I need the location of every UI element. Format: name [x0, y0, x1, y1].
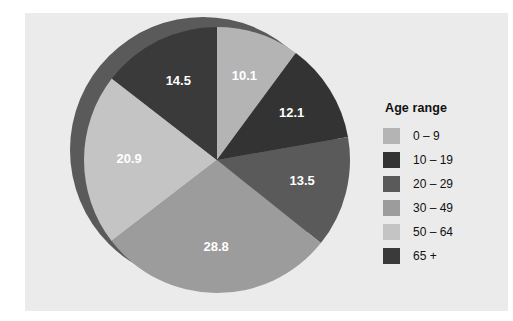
legend-item[interactable]: 65 + [383, 244, 493, 268]
legend-item-label: 65 + [413, 249, 437, 263]
legend-item-label: 0 – 9 [413, 129, 440, 143]
legend-title: Age range [385, 101, 493, 115]
pie-slice-label: 28.8 [204, 239, 229, 254]
legend-swatch [383, 128, 400, 144]
chart-page: 10.112.113.528.820.914.5 Age range 0 – 9… [0, 0, 513, 321]
legend-item[interactable]: 10 – 19 [383, 148, 493, 172]
legend-rows: 0 – 910 – 1920 – 2930 – 4950 – 6465 + [383, 124, 493, 268]
legend-item[interactable]: 0 – 9 [383, 124, 493, 148]
pie-slice-label: 10.1 [232, 68, 257, 83]
legend-swatch [383, 176, 400, 192]
legend-item[interactable]: 20 – 29 [383, 172, 493, 196]
pie-chart-svg: 10.112.113.528.820.914.5 [55, 8, 365, 308]
pie-slice-label: 14.5 [166, 73, 191, 88]
legend-item-label: 20 – 29 [413, 177, 453, 191]
pie-chart-area: 10.112.113.528.820.914.5 Age range 0 – 9… [0, 0, 513, 321]
pie-slice-label: 12.1 [279, 105, 304, 120]
legend-item-label: 10 – 19 [413, 153, 453, 167]
pie-slice-label: 13.5 [289, 173, 314, 188]
legend-swatch [383, 248, 400, 264]
legend-item[interactable]: 30 – 49 [383, 196, 493, 220]
legend-swatch [383, 224, 400, 240]
legend: Age range 0 – 910 – 1920 – 2930 – 4950 –… [383, 101, 493, 268]
legend-item-label: 50 – 64 [413, 225, 453, 239]
legend-item-label: 30 – 49 [413, 201, 453, 215]
legend-swatch [383, 152, 400, 168]
legend-swatch [383, 200, 400, 216]
legend-item[interactable]: 50 – 64 [383, 220, 493, 244]
pie-slice-label: 20.9 [117, 151, 142, 166]
